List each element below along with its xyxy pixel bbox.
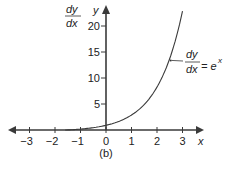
x-tick-label: −1 bbox=[71, 135, 84, 147]
annotation-rhs: = e bbox=[201, 60, 217, 72]
y-tick-label: 5 bbox=[94, 98, 100, 110]
y-axis-arrow-up bbox=[102, 5, 110, 14]
y-label-numerator: dy bbox=[66, 3, 79, 15]
annotation-leader-line bbox=[172, 60, 183, 61]
curve-annotation: dy dx = e x bbox=[170, 48, 223, 75]
y-tick-label: 20 bbox=[88, 20, 100, 32]
y-ticks: 5101520 bbox=[88, 20, 106, 110]
annotation-superscript: x bbox=[217, 56, 223, 65]
x-axis-arrow-right bbox=[196, 126, 204, 134]
annotation-numerator: dy bbox=[186, 48, 199, 60]
annotation-denominator: dx bbox=[186, 63, 198, 75]
x-tick-label: −3 bbox=[20, 135, 33, 147]
chart: −3−2−10123 5101520 x y dy dx dy dx = e x… bbox=[0, 0, 227, 169]
y-tick-label: 15 bbox=[88, 46, 100, 58]
x-tick-label: 2 bbox=[154, 135, 160, 147]
x-axis-label: x bbox=[197, 135, 204, 147]
x-tick-label: 3 bbox=[179, 135, 185, 147]
y-tick-label: 10 bbox=[88, 72, 100, 84]
annotation-point bbox=[170, 59, 172, 61]
y-label-denominator: dx bbox=[66, 17, 78, 29]
x-tick-label: −2 bbox=[46, 135, 59, 147]
y-axis-label: y bbox=[92, 4, 100, 16]
y-axis-label-derivative: dy dx bbox=[65, 3, 81, 29]
series-line-exp bbox=[65, 11, 182, 130]
figure-caption: (b) bbox=[99, 147, 112, 159]
x-tick-label: 0 bbox=[103, 135, 109, 147]
x-axis-arrow-left bbox=[8, 126, 16, 134]
x-tick-label: 1 bbox=[128, 135, 134, 147]
